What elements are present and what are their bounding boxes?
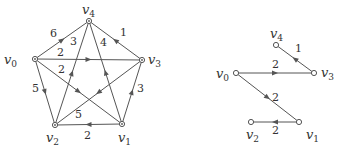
node-center-dot	[88, 20, 90, 22]
arrow-icon	[42, 88, 47, 94]
node-v2	[248, 119, 253, 124]
node-label-v1: v1	[306, 127, 319, 144]
edge-weight: 2	[57, 46, 64, 59]
node-label-v3: v3	[148, 52, 161, 69]
arrow-icon	[69, 70, 74, 76]
node-label-v2: v2	[46, 130, 59, 147]
full-graph: 6225341352v0v1v2v3v4	[4, 2, 161, 147]
edge-weight: 3	[137, 82, 144, 95]
arrow-icon	[96, 89, 102, 95]
arrow-icon	[104, 70, 109, 76]
arrow-icon	[75, 88, 81, 94]
edge-weight: 2	[272, 58, 279, 71]
node-v1	[296, 119, 301, 124]
node-v0	[233, 70, 238, 75]
node-v3	[311, 70, 316, 75]
node-v4	[273, 42, 278, 47]
arrow-icon	[113, 39, 119, 45]
node-label-v2: v2	[246, 127, 259, 144]
node-label-v0: v0	[4, 52, 17, 69]
edge-weight: 1	[295, 42, 302, 55]
arrow-icon	[58, 38, 64, 43]
arrow-icon	[264, 94, 270, 100]
node-center-dot	[54, 124, 56, 126]
node-label-v1: v1	[118, 130, 131, 147]
node-center-dot	[141, 59, 143, 61]
node-center-dot	[34, 58, 36, 60]
shortest-path-tree: 2122v0v1v2v3v4	[216, 26, 334, 144]
graph-canvas: 6225341352v0v1v2v3v42122v0v1v2v3v4	[0, 0, 348, 149]
edge-weight: 6	[50, 27, 57, 40]
edge-weight: 4	[100, 36, 107, 49]
node-label-v4: v4	[82, 2, 95, 19]
arrow-icon	[272, 71, 278, 76]
edge-weight: 2	[84, 129, 91, 142]
node-label-v3: v3	[321, 65, 334, 82]
arrow-icon	[86, 122, 92, 127]
edge-weight: 5	[32, 82, 39, 95]
node-center-dot	[121, 123, 123, 125]
edge-weight: 3	[70, 35, 77, 48]
arrow-icon	[129, 89, 134, 95]
arrow-icon	[293, 57, 299, 63]
edge-weight: 2	[58, 63, 65, 76]
edge-weight: 2	[272, 91, 279, 104]
node-label-v4: v4	[270, 26, 283, 43]
arrow-icon	[85, 57, 91, 62]
edge-weight: 2	[272, 124, 279, 137]
node-label-v0: v0	[216, 66, 229, 83]
edge-weight: 1	[120, 26, 127, 39]
edge-weight: 5	[75, 108, 82, 121]
